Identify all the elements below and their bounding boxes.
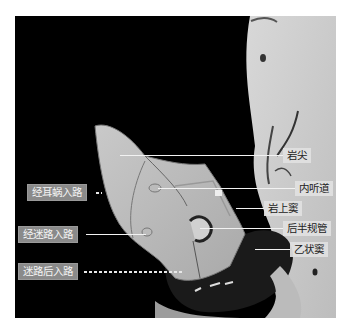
leader-line-internal-auditory-canal xyxy=(158,188,295,189)
label-internal-auditory-canal: 内听道 xyxy=(295,181,333,196)
label-retrolabyrinthine-approach: 迷路后入路 xyxy=(18,263,78,280)
leader-line-posterior-semicircular-canal xyxy=(200,228,283,229)
label-posterior-semicircular-canal: 后半规管 xyxy=(283,221,331,236)
leader-line-superior-petrosal-sinus xyxy=(236,208,264,209)
leader-line-sigmoid-sinus xyxy=(255,249,290,250)
leader-line-transcochlear-approach xyxy=(96,192,102,194)
label-superior-petrosal-sinus: 岩上窦 xyxy=(264,201,302,216)
label-sigmoid-sinus: 乙状窦 xyxy=(290,242,328,257)
label-transcochlear-approach: 经耳蜗入路 xyxy=(27,184,87,201)
leader-line-petrous-apex xyxy=(120,155,283,156)
label-translabyrinthine-approach: 经迷路入路 xyxy=(18,226,78,243)
leader-line-retrolabyrinthine-approach xyxy=(84,271,184,273)
label-petrous-apex: 岩尖 xyxy=(283,148,311,163)
leader-line-translabyrinthine-approach xyxy=(86,234,146,235)
